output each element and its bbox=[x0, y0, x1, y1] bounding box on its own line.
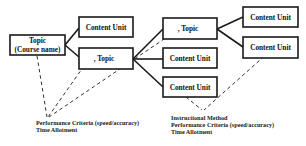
annotation-right-line1: Instructional Method bbox=[171, 114, 228, 121]
connector-root-cu1 bbox=[65, 28, 79, 45]
connector-root-topicA bbox=[65, 45, 79, 57]
topic-hierarchy-diagram: Topic (Course name) Content Unit , Topic… bbox=[0, 0, 306, 146]
node-label: , Topic bbox=[94, 54, 115, 63]
dash-cu5-right-note bbox=[186, 97, 202, 110]
node-label: Content Unit bbox=[250, 43, 291, 52]
annotation-left-line2: Time Allotment bbox=[36, 126, 78, 133]
dash-root-note bbox=[37, 56, 47, 117]
node-label: Content Unit bbox=[170, 54, 211, 63]
annotation-right-line3: Time Allotment bbox=[171, 128, 213, 135]
node-label: , Topic bbox=[178, 24, 199, 33]
dashed-connectors bbox=[37, 35, 269, 117]
node-content-unit-3: Content Unit bbox=[243, 37, 298, 58]
node-content-unit-5: Content Unit bbox=[163, 77, 217, 97]
connector-topicB-cu3 bbox=[217, 29, 243, 47]
connector-topicA-topicB bbox=[133, 29, 163, 59]
node-content-unit-4: Content Unit bbox=[163, 48, 217, 68]
node-label: Content Unit bbox=[170, 83, 211, 92]
connector-topicA-cu5 bbox=[133, 59, 163, 87]
node-root: Topic (Course name) bbox=[10, 35, 65, 55]
node-content-unit-1: Content Unit bbox=[79, 17, 133, 37]
node-label: Content Unit bbox=[86, 23, 127, 32]
node-topic-b: , Topic bbox=[163, 18, 217, 39]
dash-topicA-note bbox=[48, 66, 84, 117]
node-root-subtitle: (Course name) bbox=[14, 45, 61, 54]
annotation-left: Performance Criteria (speed/accuracy) Ti… bbox=[36, 119, 139, 133]
node-topic-a: , Topic bbox=[79, 48, 133, 69]
annotation-right: Instructional Method Performance Criteri… bbox=[171, 114, 274, 135]
node-label: Content Unit bbox=[250, 13, 291, 22]
node-content-unit-2: Content Unit bbox=[243, 7, 298, 27]
connector-topicB-cu2 bbox=[217, 17, 243, 29]
